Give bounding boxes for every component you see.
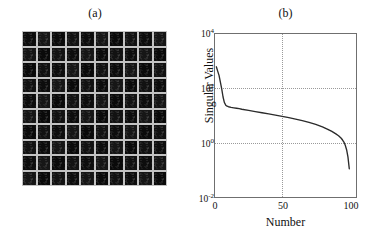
mosaic-tile: [67, 48, 80, 62]
xtick-0: 0: [213, 200, 218, 211]
plot-area: [214, 33, 357, 198]
mosaic-tile: [23, 63, 36, 77]
mosaic-tile: [96, 156, 109, 170]
mosaic-tile: [23, 141, 36, 155]
mosaic-tile: [81, 94, 94, 108]
mosaic-tile: [125, 79, 138, 93]
mosaic-tile: [125, 94, 138, 108]
mosaic-tile: [52, 32, 65, 46]
mosaic-tile: [67, 32, 80, 46]
mosaic-tile: [139, 110, 152, 124]
mosaic-tile: [154, 172, 167, 186]
mosaic-tile: [125, 156, 138, 170]
mosaic-tile: [81, 79, 94, 93]
mosaic-tile: [139, 48, 152, 62]
mosaic-tile: [125, 125, 138, 139]
mosaic-tile: [67, 156, 80, 170]
mosaic-tile: [23, 48, 36, 62]
mosaic-tile: [38, 172, 51, 186]
mosaic-tile: [96, 79, 109, 93]
mosaic-tile: [96, 32, 109, 46]
mosaic-tile: [81, 110, 94, 124]
mosaic-tile: [67, 94, 80, 108]
mosaic-tile: [154, 110, 167, 124]
mosaic-tile: [139, 32, 152, 46]
mosaic-tile: [38, 63, 51, 77]
mosaic-tile: [125, 32, 138, 46]
mosaic-tile: [110, 125, 123, 139]
mosaic-tile: [67, 141, 80, 155]
mosaic-tile: [52, 172, 65, 186]
mosaic-tile: [38, 125, 51, 139]
mosaic-tile: [81, 48, 94, 62]
x-axis-label: Number: [214, 215, 357, 230]
mosaic-tile: [38, 110, 51, 124]
mosaic-tile: [125, 48, 138, 62]
mosaic-tile: [125, 110, 138, 124]
mosaic-tile: [154, 94, 167, 108]
mosaic-tile: [154, 63, 167, 77]
mosaic-tile: [23, 156, 36, 170]
mosaic-tile: [96, 48, 109, 62]
mosaic-tile: [110, 156, 123, 170]
mosaic-tile: [125, 172, 138, 186]
mosaic-tile: [38, 156, 51, 170]
mosaic-tile: [154, 141, 167, 155]
mosaic-tile: [96, 110, 109, 124]
mosaic-tile: [139, 172, 152, 186]
mosaic-tile: [23, 172, 36, 186]
mosaic-tile: [52, 94, 65, 108]
mosaic-tile: [23, 125, 36, 139]
mosaic-tile: [38, 94, 51, 108]
mosaic-tile: [38, 79, 51, 93]
mosaic-tile: [52, 110, 65, 124]
mosaic-tile: [139, 125, 152, 139]
mosaic-tile: [52, 63, 65, 77]
mosaic-tile: [154, 48, 167, 62]
mosaic-tile: [81, 32, 94, 46]
mosaic-tile: [96, 141, 109, 155]
mosaic-tile: [67, 125, 80, 139]
mosaic-tile: [154, 156, 167, 170]
mosaic-tile: [96, 172, 109, 186]
mosaic-tile: [52, 125, 65, 139]
image-mosaic: [22, 31, 167, 186]
mosaic-tile: [23, 32, 36, 46]
mosaic-tile: [52, 79, 65, 93]
mosaic-tile: [110, 79, 123, 93]
mosaic-tile: [139, 94, 152, 108]
mosaic-tile: [96, 94, 109, 108]
mosaic-tile: [52, 156, 65, 170]
figure-root: (a) (b) 104 102 100 10-2 0 50: [0, 0, 381, 249]
mosaic-tile: [67, 63, 80, 77]
mosaic-tile: [125, 63, 138, 77]
mosaic-tile: [52, 141, 65, 155]
mosaic-tile: [139, 63, 152, 77]
mosaic-tile: [23, 110, 36, 124]
mosaic-tile: [125, 141, 138, 155]
mosaic-tile: [110, 63, 123, 77]
panel-b-title: (b): [190, 6, 381, 21]
y-axis-label: Singular Values: [202, 26, 217, 146]
mosaic-tile: [96, 125, 109, 139]
panel-b: (b) 104 102 100 10-2 0 50 100 Number Sin…: [190, 0, 381, 249]
mosaic-tile: [67, 110, 80, 124]
mosaic-tile: [38, 32, 51, 46]
mosaic-tile: [154, 32, 167, 46]
mosaic-tile: [139, 156, 152, 170]
mosaic-tile: [96, 63, 109, 77]
panel-a: (a): [0, 0, 190, 249]
singular-values-curve: [215, 34, 356, 197]
mosaic-tile: [154, 79, 167, 93]
mosaic-tile: [81, 125, 94, 139]
panel-a-title: (a): [0, 6, 190, 21]
mosaic-tile: [81, 172, 94, 186]
mosaic-tile: [52, 48, 65, 62]
mosaic-tile: [81, 63, 94, 77]
mosaic-tile: [154, 125, 167, 139]
mosaic-tile: [110, 48, 123, 62]
xtick-100: 100: [344, 200, 359, 211]
mosaic-tile: [139, 79, 152, 93]
mosaic-tile: [67, 172, 80, 186]
mosaic-grid: [22, 31, 167, 186]
